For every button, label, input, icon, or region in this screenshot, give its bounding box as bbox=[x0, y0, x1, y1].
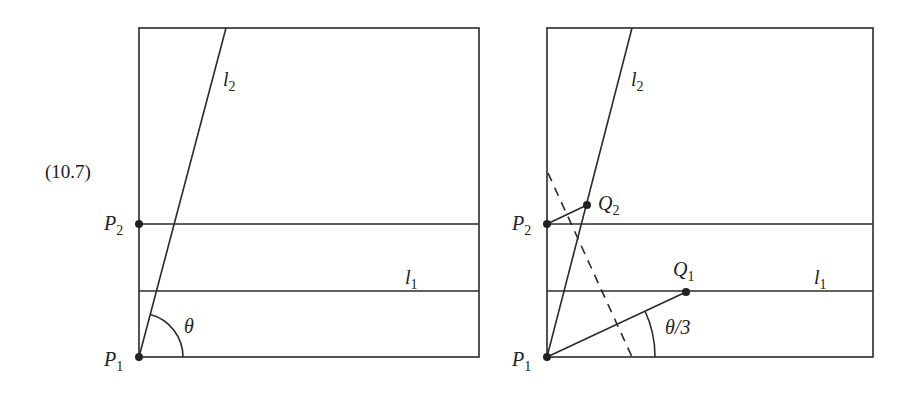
equation-number: (10.7) bbox=[45, 161, 91, 183]
right-label-l1: l1 bbox=[814, 266, 827, 292]
right-frame bbox=[547, 28, 873, 357]
right-label-l2: l2 bbox=[631, 68, 644, 94]
right-label-theta-third: θ/3 bbox=[665, 316, 690, 338]
right-point-q1 bbox=[682, 288, 690, 296]
left-point-p2 bbox=[135, 220, 143, 228]
left-label-p1: P1 bbox=[103, 348, 123, 374]
right-panel bbox=[547, 28, 873, 357]
dashed-line bbox=[548, 173, 632, 357]
left-label-l2: l2 bbox=[223, 68, 236, 94]
segment-p2-q2 bbox=[547, 205, 587, 224]
right-label-q1: Q1 bbox=[673, 258, 694, 284]
right-point-p2 bbox=[543, 220, 551, 228]
left-line-l2 bbox=[139, 28, 226, 357]
right-label-p2: P2 bbox=[511, 212, 531, 238]
right-angle-theta-third-arc bbox=[645, 311, 655, 357]
left-panel bbox=[139, 28, 479, 357]
left-label-l1: l1 bbox=[405, 266, 418, 292]
left-label-p2: P2 bbox=[103, 212, 123, 238]
left-point-p1 bbox=[135, 353, 143, 361]
left-label-theta: θ bbox=[184, 315, 194, 337]
right-label-p1: P1 bbox=[511, 348, 531, 374]
left-angle-theta-arc bbox=[150, 315, 183, 358]
angle-trisection-diagram: (10.7) l2 l1 P2 P1 θ l2 l1 P2 P1 Q2 Q1 θ… bbox=[0, 0, 918, 395]
right-point-p1 bbox=[543, 353, 551, 361]
right-label-q2: Q2 bbox=[598, 192, 619, 218]
right-point-q2 bbox=[583, 201, 591, 209]
right-line-l2 bbox=[547, 28, 632, 357]
left-frame bbox=[139, 28, 479, 357]
